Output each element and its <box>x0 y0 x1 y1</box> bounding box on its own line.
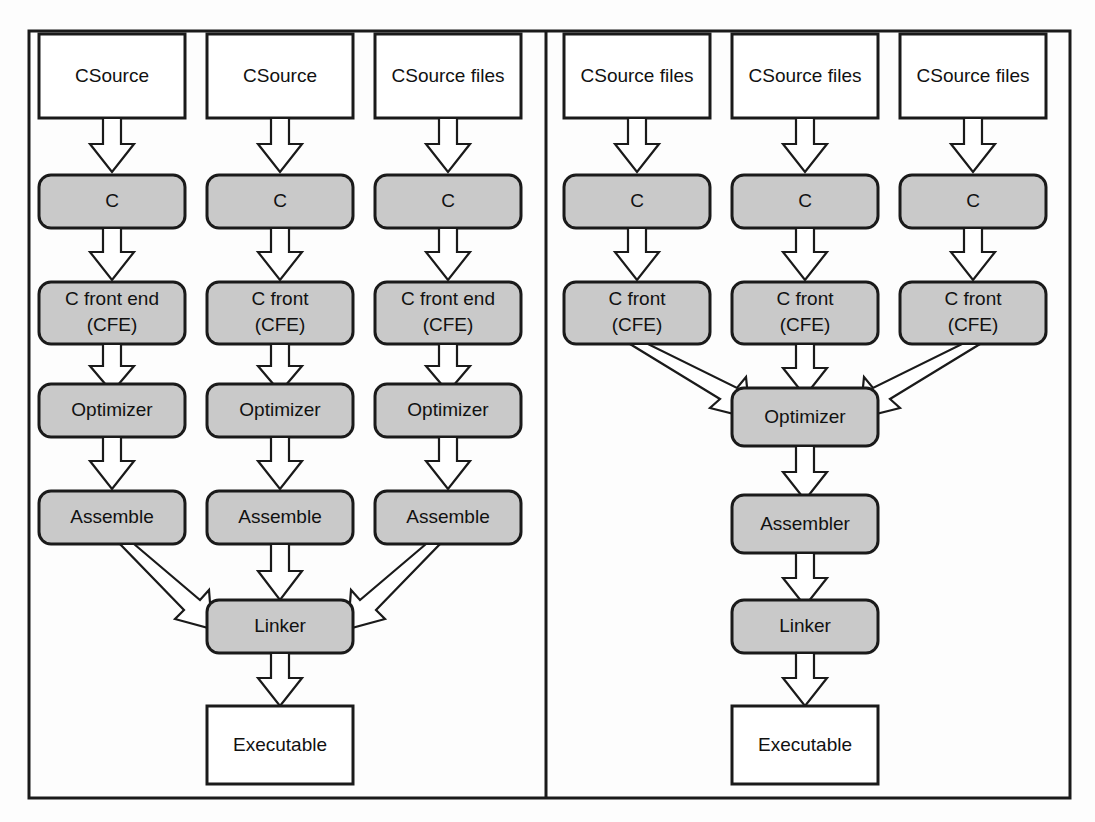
node-label-l3-c: C <box>441 190 455 211</box>
arrow-l2-c-to-cfe <box>258 228 302 280</box>
arrow-r-opt-to-asm <box>783 446 827 500</box>
arrow-r1-source-to-c <box>615 118 659 172</box>
node-label-l2-cfe-line1: C front <box>251 288 309 309</box>
node-label-r-executable: Executable <box>758 734 852 755</box>
node-label-r2-cfe-line2: (CFE) <box>780 314 831 335</box>
arrow-r-asm-to-linker <box>783 553 827 606</box>
node-label-l1-cfe-line1: C front end <box>65 288 159 309</box>
compilation-pipeline-diagram: CSource C C front end (CFE) Optimizer As… <box>0 0 1095 822</box>
arrow-l1-opt-to-asm <box>90 437 134 489</box>
node-label-l2-c: C <box>273 190 287 211</box>
arrow-l1-source-to-c <box>90 118 134 172</box>
arrow-l1-c-to-cfe <box>90 228 134 280</box>
node-label-l-linker: Linker <box>254 615 306 636</box>
arrow-l2-asm-to-linker <box>258 544 302 600</box>
arrow-r2-source-to-c <box>783 118 827 172</box>
node-label-r-assembler: Assembler <box>760 513 850 534</box>
node-label-l1-assemble: Assemble <box>70 506 153 527</box>
node-label-r1-cfe-line1: C front <box>608 288 666 309</box>
node-label-l2-assemble: Assemble <box>238 506 321 527</box>
node-label-r2-cfe-line1: C front <box>776 288 834 309</box>
arrow-r1-c-to-cfe <box>615 228 659 280</box>
node-label-l3-assemble: Assemble <box>406 506 489 527</box>
arrow-r3-c-to-cfe <box>951 228 995 280</box>
node-label-l3-source: CSource files <box>392 65 505 86</box>
arrow-l3-opt-to-asm <box>426 437 470 489</box>
node-label-r3-source: CSource files <box>917 65 1030 86</box>
node-label-l-executable: Executable <box>233 734 327 755</box>
node-label-r1-cfe-line2: (CFE) <box>612 314 663 335</box>
arrow-r-linker-to-exe <box>783 653 827 706</box>
arrow-r2-c-to-cfe <box>783 228 827 280</box>
node-label-l3-cfe-line2: (CFE) <box>423 314 474 335</box>
node-label-r2-c: C <box>798 190 812 211</box>
node-label-l2-optimizer: Optimizer <box>239 399 321 420</box>
node-label-l1-source: CSource <box>75 65 149 86</box>
node-label-l2-cfe-line2: (CFE) <box>255 314 306 335</box>
node-label-l3-optimizer: Optimizer <box>407 399 489 420</box>
diagram-canvas: CSource C C front end (CFE) Optimizer As… <box>0 0 1095 822</box>
node-label-r-linker: Linker <box>779 615 831 636</box>
arrow-l3-c-to-cfe <box>426 228 470 280</box>
node-label-l1-cfe-line2: (CFE) <box>87 314 138 335</box>
node-label-r1-source: CSource files <box>581 65 694 86</box>
arrow-l2-opt-to-asm <box>258 437 302 489</box>
arrow-l-linker-to-exe <box>258 653 302 706</box>
arrow-l1-asm-to-linker <box>120 544 212 629</box>
arrow-l2-source-to-c <box>258 118 302 172</box>
node-label-r2-source: CSource files <box>749 65 862 86</box>
node-label-r3-cfe-line1: C front <box>944 288 1002 309</box>
node-label-r3-c: C <box>966 190 980 211</box>
node-label-l1-c: C <box>105 190 119 211</box>
arrow-r3-source-to-c <box>951 118 995 172</box>
arrow-l3-asm-to-linker <box>348 544 440 629</box>
node-label-r3-cfe-line2: (CFE) <box>948 314 999 335</box>
node-label-r1-c: C <box>630 190 644 211</box>
node-label-l3-cfe-line1: C front end <box>401 288 495 309</box>
arrow-l3-source-to-c <box>426 118 470 172</box>
node-label-r-optimizer: Optimizer <box>764 406 846 427</box>
node-label-l2-source: CSource <box>243 65 317 86</box>
node-label-l1-optimizer: Optimizer <box>71 399 153 420</box>
